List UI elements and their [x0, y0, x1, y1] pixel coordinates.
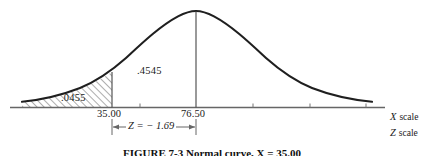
tail-area-label: .0455: [61, 93, 86, 104]
z-score-label: Z = − 1.69: [126, 121, 176, 132]
normal-curve-figure: .0455 .4545 35.00 76.50 Z = − 1.69 Xscal…: [0, 0, 424, 156]
x-scale-label: Xscale: [390, 112, 418, 123]
x-scale-word: scale: [399, 112, 418, 122]
x-scale-symbol: X: [390, 111, 396, 122]
z-scale-label: Zscale: [390, 128, 418, 139]
z-scale-symbol: Z: [390, 127, 396, 138]
tick-label-mean: 76.50: [181, 109, 205, 120]
normal-curve-path: [22, 11, 372, 102]
figure-caption: FIGURE 7-3 Normal curve, X = 35.00: [0, 147, 424, 156]
body-area-label: .4545: [137, 66, 162, 77]
z-scale-word: scale: [399, 128, 418, 138]
tick-label-cutoff: 35.00: [97, 109, 121, 120]
distribution-chart-svg: [0, 0, 424, 156]
